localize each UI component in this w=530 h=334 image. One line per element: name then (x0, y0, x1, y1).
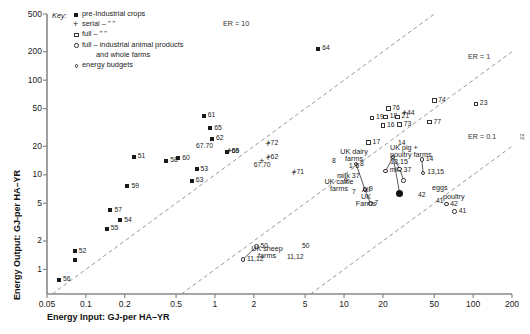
x-tick-label: 0.2 (116, 300, 134, 309)
y-tick-label: 2 (12, 236, 42, 245)
legend-small-circle-icon (75, 64, 79, 68)
filled-square-marker (202, 114, 206, 118)
point-label: 65 (214, 125, 222, 132)
annotation-label: 11,12 (287, 254, 304, 261)
legend-item-label: full – " " (82, 30, 107, 37)
filled-square-marker (316, 47, 320, 51)
point-label: 59 (131, 183, 139, 190)
open-circle-marker (383, 169, 388, 174)
point-label: 74 (438, 97, 446, 104)
annotation-label: 41 (436, 198, 444, 205)
annotation-label: 67.70 (196, 143, 213, 150)
y-tick-label: 20 (12, 142, 42, 151)
point-label: 54 (124, 217, 132, 224)
open-square-marker (370, 116, 375, 121)
legend-filled-square-icon (74, 13, 78, 17)
filled-square-marker (208, 126, 212, 130)
x-tick-label: 0.1 (77, 300, 95, 309)
x-axis-title: Energy Input: GJ-per HA–YR (47, 313, 170, 322)
annotation-label: UK sheepfarms (245, 245, 289, 259)
annotation-label: milk 37 (337, 172, 360, 179)
legend-item-label: full – industrial animal products (82, 41, 183, 48)
annotation-label: 14 (398, 140, 406, 147)
filled-square-marker (164, 159, 168, 163)
filled-square-marker (195, 167, 199, 171)
point-label: 62 (216, 135, 224, 142)
y-axis-title: Energy Output: GJ-per HA–YR (12, 170, 22, 300)
filled-square-marker (105, 227, 109, 231)
x-tick-label: 2 (245, 300, 263, 309)
filled-square-marker (125, 184, 129, 188)
point-label: 60 (182, 155, 190, 162)
open-square-marker (395, 115, 400, 120)
legend-item-label: energy budgets (82, 61, 133, 68)
legend-item-label: and whole farms (96, 51, 150, 58)
y-tick-label: 50 (12, 104, 42, 113)
y-tick-label: 200 (12, 47, 42, 56)
x-tick-label: 10 (335, 300, 353, 309)
y-tick-label: 1 (12, 265, 42, 274)
point-label: 64 (322, 45, 330, 52)
open-square-marker (432, 98, 437, 103)
annotation-label: eggs (432, 184, 448, 191)
point-label: 73 (404, 121, 412, 128)
open-square-marker (381, 123, 386, 128)
filled-square-marker (108, 208, 112, 212)
point-label: 41 (459, 208, 467, 215)
annotation-label: ER = 0.1 (468, 133, 496, 140)
point-label: 42 (450, 201, 458, 208)
open-square-marker (427, 120, 432, 125)
open-square-marker (383, 115, 388, 120)
point-label: 56 (63, 276, 71, 283)
annotation-label: 42 (418, 192, 426, 199)
point-label: 17 (373, 139, 381, 146)
open-square-marker (474, 102, 479, 107)
legend-plus-icon: + (73, 20, 78, 29)
y-tick-label: 10 (12, 170, 42, 179)
annotation-label: ER = 10 (223, 20, 249, 27)
annotation-label: UK dairyfarms1-6 (336, 148, 372, 170)
open-square-marker (386, 106, 391, 111)
y-tick-label: 100 (12, 76, 42, 85)
point-label: 57 (114, 207, 122, 214)
point-label: 13,15 (427, 169, 444, 176)
filled-square-marker (176, 156, 180, 160)
x-tick-label: 1 (206, 300, 224, 309)
x-tick-label: 5 (296, 300, 314, 309)
plus-marker: + (259, 157, 264, 166)
point-label: 51 (138, 153, 146, 160)
annotation-label: UK pig +poultry farms13,15 (390, 144, 450, 166)
legend-title: Key: (52, 12, 67, 19)
open-square-marker (397, 122, 402, 127)
open-circle-marker (444, 202, 449, 207)
x-tick-label: 200 (503, 300, 521, 309)
x-tick-label: 0.05 (38, 300, 56, 309)
x-tick-label: 50 (425, 300, 443, 309)
plus-marker: + (265, 140, 270, 149)
y-tick-label: 5 (12, 199, 42, 208)
filled-square-marker (118, 218, 122, 222)
annotation-label: AllUKFarms (352, 186, 380, 208)
x-tick-label: 100 (464, 300, 482, 309)
point-label: 63 (196, 177, 204, 184)
point-label: 53 (201, 166, 209, 173)
point-label: 61 (208, 112, 216, 119)
point-label: 76 (392, 105, 400, 112)
legend-item-label: serial – " " (82, 20, 115, 27)
x-tick-label: 0.5 (167, 300, 185, 309)
open-circle-marker (401, 178, 406, 183)
open-circle-marker (452, 209, 457, 214)
page-side-number: 22 (519, 133, 525, 140)
filled-square-marker (57, 278, 61, 282)
filled-square-marker (73, 258, 77, 262)
annotation-label: ER = 1 (468, 53, 490, 60)
filled-square-marker (210, 137, 214, 141)
annotation-label: poultry (443, 193, 465, 200)
filled-square-marker (73, 249, 77, 253)
annotation-label: 7 (352, 189, 356, 196)
plus-marker: + (226, 147, 231, 156)
annotation-label: 50 (302, 243, 310, 250)
point-label: 52 (79, 248, 87, 255)
annotation-label: 8 (332, 158, 336, 165)
plus-marker: + (291, 169, 296, 178)
